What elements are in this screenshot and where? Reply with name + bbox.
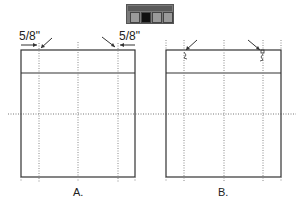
diagram-b [166, 40, 281, 182]
right-measure-label: 5/8" [119, 29, 140, 43]
diagram-canvas [0, 0, 302, 207]
diagram-b-label: B. [218, 186, 228, 198]
diagram-a-label: A. [73, 186, 83, 198]
left-measure-label: 5/8" [19, 29, 40, 43]
diagram-a [21, 37, 135, 182]
